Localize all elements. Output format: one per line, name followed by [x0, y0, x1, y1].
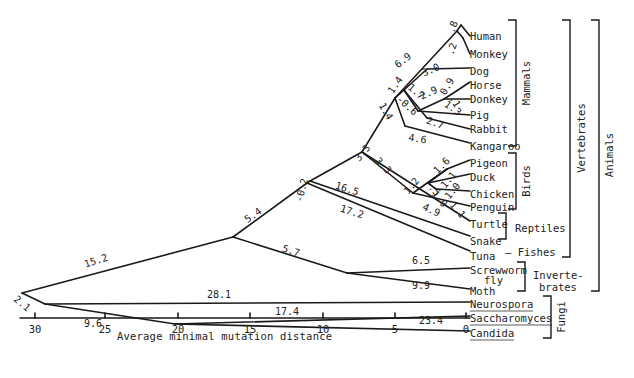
tree-branch: [45, 304, 175, 324]
branch-length: 4.6: [408, 132, 428, 146]
group-bracket: [508, 20, 516, 146]
tree-branch: [457, 31, 463, 38]
tree-branch: [347, 268, 470, 273]
branch-length: 16.5: [334, 180, 360, 198]
branch-length: 1.4: [377, 101, 396, 122]
branch-length: 3.3: [373, 155, 394, 176]
tree-branch: [463, 38, 470, 54]
group-label: Fungi: [555, 301, 567, 333]
branch-length-labels: .8.26.93.01.41.72.90.9.11.3-0.62.71.44.6…: [12, 19, 468, 329]
branch-length: 28.1: [207, 289, 231, 300]
taxon-label: Horse: [470, 79, 502, 91]
taxon-label: Penguin: [470, 201, 514, 213]
axis-tick-label: 0: [463, 323, 469, 335]
axis-tick-label: 25: [99, 323, 112, 335]
taxon-label: Turtle: [470, 218, 508, 230]
tree-branch: [458, 82, 470, 90]
branch-length: .2: [444, 41, 458, 56]
group-label: Inverte-: [533, 269, 584, 281]
taxon-label: Donkey: [470, 93, 508, 105]
group-brackets: MammalsBirdsReptiles— FishesVertebratesI…: [498, 20, 615, 338]
branch-length: -0.2: [293, 177, 310, 203]
tree-branch: [461, 25, 470, 36]
taxon-label: Saccharomyces: [470, 312, 552, 324]
branch-length: 5.7: [281, 243, 302, 259]
phylogenetic-tree: .8.26.93.01.41.72.90.9.11.3-0.62.71.44.6…: [0, 0, 634, 378]
taxon-label: Rabbit: [470, 123, 508, 135]
axis-tick-label: 5: [392, 323, 398, 335]
group-label: — Fishes: [505, 246, 556, 258]
branch-length: 23.4: [419, 315, 443, 326]
branch-length: 3.3: [352, 142, 372, 163]
branch-length: 6.9: [392, 50, 413, 70]
branch-length: 15.2: [83, 252, 109, 270]
group-label: Vertebrates: [575, 103, 587, 173]
taxon-label: Chicken: [470, 188, 514, 200]
taxon-label: Duck: [470, 171, 496, 183]
taxon-label: Neurospora: [470, 298, 533, 310]
taxon-label: Monkey: [470, 48, 508, 60]
taxon-label: Human: [470, 30, 502, 42]
taxon-label: Candida: [470, 327, 514, 339]
branch-length: 9.9: [412, 280, 430, 291]
tree-branch: [447, 160, 470, 169]
group-label: Animals: [603, 133, 615, 177]
branch-length: 17.4: [275, 306, 299, 317]
tree-branch: [347, 273, 470, 289]
group-bracket: [591, 20, 599, 291]
axis-tick-label: 30: [29, 323, 42, 335]
taxon-label: Snake: [470, 235, 502, 247]
taxon-label: Dog: [470, 65, 489, 77]
taxon-labels: HumanMonkeyDogHorseDonkeyPigRabbitKangar…: [470, 30, 552, 340]
branch-length: 6.5: [412, 255, 430, 266]
taxon-label: Tuna: [470, 250, 495, 262]
branch-length: 2.7: [425, 114, 446, 131]
taxon-label: Moth: [470, 285, 495, 297]
taxon-label: Pig: [470, 109, 489, 121]
tree-edges: [22, 25, 470, 331]
group-label: Reptiles: [515, 222, 566, 234]
tree-branch: [45, 302, 470, 304]
group-label: Birds: [520, 165, 532, 197]
tree-branch: [418, 111, 470, 115]
taxon-label: Pigeon: [470, 157, 508, 169]
tree-branch: [22, 237, 233, 293]
branch-length: 3.0: [420, 61, 441, 78]
branch-length: 2.9: [418, 84, 439, 102]
group-label: Mammals: [520, 61, 532, 105]
axis-label: Average minimal mutation distance: [117, 330, 332, 342]
group-label: brates: [539, 281, 577, 293]
